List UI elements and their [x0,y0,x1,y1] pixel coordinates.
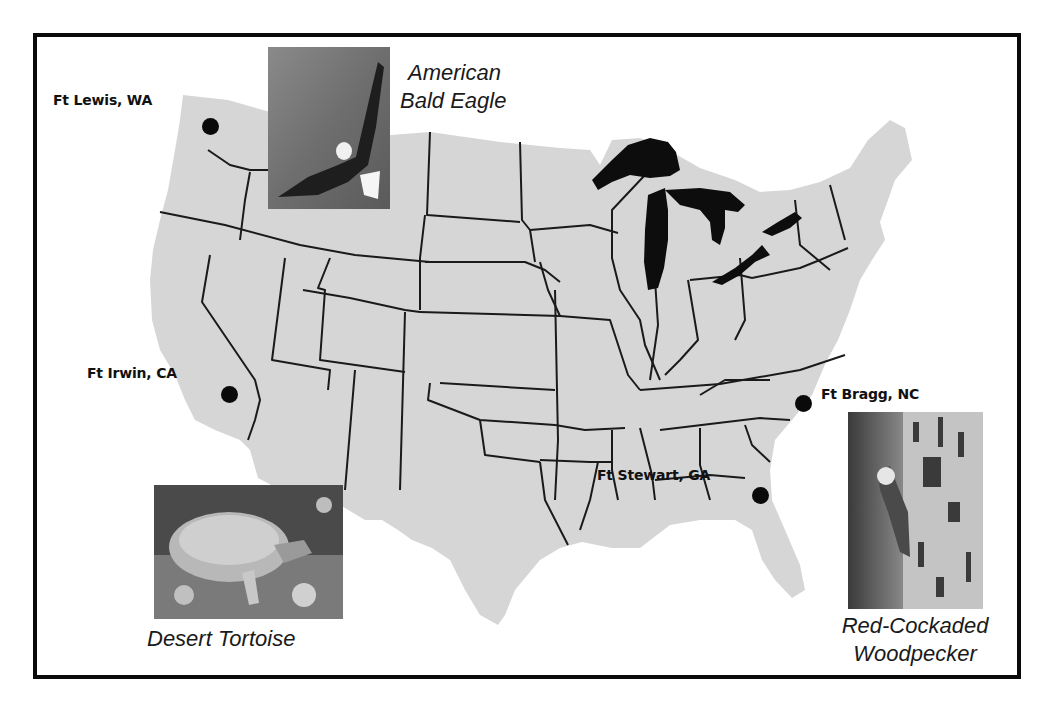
site-label-ft-irwin: Ft Irwin, CA [87,365,177,381]
eagle-caption-line1: American [400,59,506,87]
woodpecker-caption-line2: Woodpecker [805,640,1025,668]
eagle-caption: American Bald Eagle [400,59,506,115]
desert-tortoise-photo [154,485,343,619]
red-cockaded-woodpecker-photo [848,412,983,609]
tortoise-caption: Desert Tortoise [147,625,295,653]
woodpecker-caption: Red-Cockaded Woodpecker [805,612,1025,668]
woodpecker-caption-line1: Red-Cockaded [805,612,1025,640]
eagle-caption-line2: Bald Eagle [400,87,506,115]
site-label-ft-stewart: Ft Stewart, GA [597,467,710,483]
site-label-ft-bragg: Ft Bragg, NC [821,386,919,402]
site-marker-ft-bragg[interactable] [795,395,812,412]
site-marker-ft-irwin[interactable] [221,386,238,403]
site-label-ft-lewis: Ft Lewis, WA [53,92,152,108]
site-marker-ft-lewis[interactable] [202,118,219,135]
bald-eagle-photo [268,47,390,209]
site-marker-ft-stewart[interactable] [752,487,769,504]
